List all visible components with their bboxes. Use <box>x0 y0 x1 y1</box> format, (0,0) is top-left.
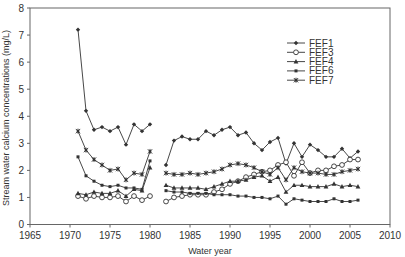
x-tick-label: 2000 <box>299 230 322 241</box>
y-axis: 012345678 <box>18 3 30 231</box>
x-tick-label: 1965 <box>19 230 42 241</box>
y-tick-label: 0 <box>18 219 24 230</box>
y-tick-label: 2 <box>18 165 24 176</box>
y-tick-label: 7 <box>18 30 24 41</box>
legend: FEF1FEF3FEF4FEF6FEF7 <box>287 38 334 86</box>
y-tick-label: 5 <box>18 84 24 95</box>
series-fef3 <box>76 157 361 204</box>
y-axis-title: Stream water calcium concentrations (mg/… <box>1 30 11 206</box>
y-tick-label: 8 <box>18 3 24 14</box>
plot-frame <box>30 8 390 225</box>
x-tick-label: 2010 <box>379 230 402 241</box>
series-fef7 <box>76 129 360 183</box>
y-tick-label: 3 <box>18 138 24 149</box>
calcium-line-chart: 012345678 196519701975198019851990199520… <box>0 0 405 257</box>
x-tick-label: 1995 <box>259 230 282 241</box>
y-tick-label: 4 <box>18 111 24 122</box>
y-tick-label: 1 <box>18 192 24 203</box>
y-tick-label: 6 <box>18 57 24 68</box>
x-axis-title: Water year <box>188 246 232 256</box>
x-tick-label: 1970 <box>59 230 82 241</box>
legend-label: FEF7 <box>309 75 334 86</box>
x-tick-label: 2005 <box>339 230 362 241</box>
chart-svg: 012345678 196519701975198019851990199520… <box>0 0 405 257</box>
x-axis: 1965197019751980198519901995200020052010 <box>19 225 402 241</box>
x-tick-label: 1975 <box>99 230 122 241</box>
legend-item-fef7: FEF7 <box>287 75 334 86</box>
x-tick-label: 1985 <box>179 230 202 241</box>
x-tick-label: 1990 <box>219 230 242 241</box>
x-tick-label: 1980 <box>139 230 162 241</box>
